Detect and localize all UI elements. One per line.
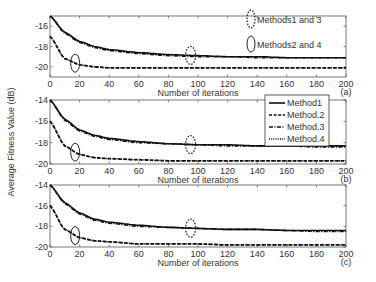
x-axis-label: Number of iterations	[157, 175, 239, 185]
annotation-key: Methods1 and 3 Methods2 and 4	[247, 10, 322, 52]
x-tick-label: 60	[134, 79, 144, 89]
legend: Method1 Method.2 Method.3 Method.4	[265, 95, 329, 146]
x-tick-label: 0	[47, 166, 52, 176]
x-tick-label: 140	[250, 249, 265, 259]
panel-tag: (c)	[341, 257, 352, 267]
panel-tag: (b)	[341, 174, 352, 184]
legend-item-method2: Method.2	[287, 110, 325, 120]
x-tick-label: 20	[75, 166, 85, 176]
series-method4	[50, 206, 346, 245]
x-tick-label: 180	[309, 249, 324, 259]
x-tick-label: 0	[47, 249, 52, 259]
x-tick-label: 140	[250, 166, 265, 176]
y-tick-label: -18	[35, 42, 48, 52]
x-tick-label: 140	[250, 79, 265, 89]
y-tick-label: -14	[35, 180, 48, 190]
solid-ellipse-marker-icon	[71, 143, 80, 161]
x-axis-label: Number of iterations	[157, 88, 239, 98]
x-tick-label: 0	[47, 79, 52, 89]
annotation-methods-2-4: Methods2 and 4	[257, 40, 322, 50]
y-tick-label: -16	[35, 21, 48, 31]
panel-c: 020406080100120140160180200-14-16-18-20N…	[35, 180, 354, 268]
x-tick-label: 180	[309, 79, 324, 89]
panel-tag: (a)	[341, 87, 352, 97]
x-tick-label: 40	[104, 79, 114, 89]
legend-item-method1: Method1	[287, 98, 322, 108]
annotation-methods-1-3: Methods1 and 3	[257, 15, 322, 25]
y-tick-label: -20	[35, 242, 48, 252]
panel-a: 020406080100120140160180200-16-18-20Numb…	[35, 16, 354, 98]
y-axis-label: Average Fitness Value (dB)	[6, 87, 16, 196]
y-tick-label: -20	[35, 159, 48, 169]
series-method1	[50, 185, 346, 231]
series-method3	[50, 185, 346, 232]
x-tick-label: 60	[134, 249, 144, 259]
series-method2	[50, 206, 346, 245]
y-tick-label: -16	[35, 116, 48, 126]
x-tick-label: 160	[279, 249, 294, 259]
legend-item-method4: Method.4	[287, 134, 325, 144]
x-tick-label: 60	[134, 166, 144, 176]
x-tick-label: 40	[104, 166, 114, 176]
chart-figure: Average Fitness Value (dB) 0204060801001…	[0, 0, 376, 282]
y-tick-label: -14	[35, 95, 48, 105]
x-axis-label: Number of iterations	[157, 258, 239, 268]
x-tick-label: 160	[279, 166, 294, 176]
x-tick-label: 20	[75, 249, 85, 259]
y-tick-label: -18	[35, 138, 48, 148]
x-tick-label: 40	[104, 249, 114, 259]
y-tick-label: -18	[35, 221, 48, 231]
dotted-ellipse-key-icon	[247, 10, 255, 28]
y-tick-label: -20	[35, 62, 48, 72]
x-tick-label: 20	[75, 79, 85, 89]
legend-item-method3: Method.3	[287, 122, 325, 132]
x-tick-label: 160	[279, 79, 294, 89]
x-tick-label: 180	[309, 166, 324, 176]
y-tick-label: -16	[35, 201, 48, 211]
plot-frame	[50, 185, 346, 247]
solid-ellipse-key-icon	[247, 36, 255, 52]
